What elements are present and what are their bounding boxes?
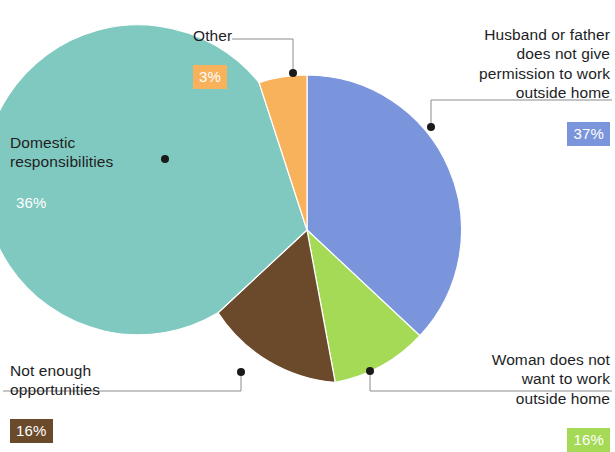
callout-text-woman: Woman does not want to work outside home [452,350,610,409]
callout-text-other: Other [193,26,333,46]
connector-dot-husband [427,123,435,131]
callout-label-not-enough-opportunities: Not enough opportunities 16% [10,341,170,443]
callout-badge-row-other: 3% [193,68,227,85]
percent-badge-not-enough-opportunities: 16% [10,419,53,443]
callout-text-domestic: Domestic responsibilities [10,133,170,172]
percent-badge-husband: 37% [567,122,610,146]
connector-dot-notenough [237,368,245,376]
callout-label-other: Other 3% [193,6,333,89]
connector-dot-woman [366,367,374,375]
callout-badge-row-husband: 37% [567,125,610,142]
callout-text-not-enough-opportunities: Not enough opportunities [10,361,170,400]
callout-label-domestic: Domestic responsibilities 36% [10,113,170,215]
callout-label-husband: Husband or father does not give permissi… [452,5,610,146]
callout-badge-row-woman: 16% [567,431,610,448]
callout-label-woman: Woman does not want to work outside home… [452,330,610,452]
percent-badge-domestic: 36% [10,191,53,215]
percent-badge-other: 3% [193,65,227,89]
callout-text-husband: Husband or father does not give permissi… [452,25,610,103]
callout-badge-row-domestic: 36% [10,194,53,211]
callout-badge-row-not-enough-opportunities: 16% [10,422,53,439]
percent-badge-woman: 16% [567,428,610,452]
